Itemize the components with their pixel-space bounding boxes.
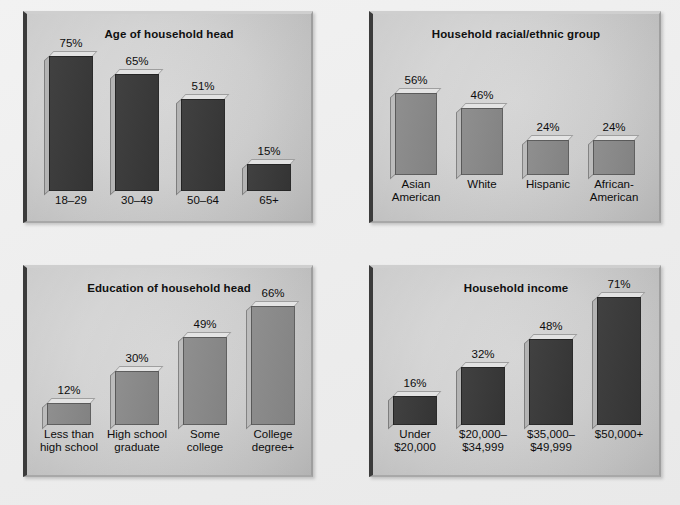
chart-title: Household racial/ethnic group (373, 28, 659, 40)
bar-category-label-line: African- (590, 178, 639, 191)
bar (47, 403, 91, 425)
bar-category-label-line: 30–49 (121, 194, 153, 207)
bar-category-label-line: $34,999 (459, 441, 507, 454)
bar-category-label: Somecollege (187, 428, 223, 454)
bar (461, 367, 505, 425)
bar-value-label: 56% (404, 74, 427, 86)
bar-category-label-line: White (467, 178, 496, 191)
bar-category-label: 30–49 (121, 194, 153, 207)
chart-panel-household-racial-ethnic-group: Household racial/ethnic group 56%AsianAm… (369, 11, 661, 223)
bar-group: 30%High schoolgraduate (115, 371, 159, 425)
chart-title: Education of household head (27, 282, 311, 294)
bar (597, 297, 641, 425)
bar-category-label-line: $20,000– (459, 428, 507, 441)
bar-group: 24%African-American (593, 140, 635, 175)
bar-category-label-line: Hispanic (526, 178, 570, 191)
bar-category-label-line: 18–29 (55, 194, 87, 207)
bar-value-label: 15% (257, 145, 280, 157)
bar-value-label: 30% (125, 352, 148, 364)
plot-area: 12%Less thanhigh school30%High schoolgra… (27, 268, 311, 475)
bar-value-label: 24% (602, 121, 625, 133)
bar-category-label: Less thanhigh school (40, 428, 98, 454)
bar-category-label-line: Under (394, 428, 436, 441)
bar-category-label-line: High school (107, 428, 167, 441)
bar-category-label-line: College (252, 428, 295, 441)
bar-value-label: 49% (193, 318, 216, 330)
bar (115, 371, 159, 425)
bar-category-label-line: high school (40, 441, 98, 454)
bar-category-label-line: 65+ (259, 194, 279, 207)
bar-front-face (529, 339, 573, 425)
bar (393, 396, 437, 425)
bar-category-label-line: graduate (107, 441, 167, 454)
bar-group: 75%18–29 (49, 56, 93, 191)
chart-panel-education-of-household-head: Education of household head 12%Less than… (23, 265, 313, 477)
bar-front-face (593, 140, 635, 175)
bar-category-label: 18–29 (55, 194, 87, 207)
bar-value-label: 16% (403, 377, 426, 389)
bar-category-label: Hispanic (526, 178, 570, 191)
bar-front-face (393, 396, 437, 425)
bar-front-face (115, 371, 159, 425)
bar-category-label: White (467, 178, 496, 191)
bar (461, 108, 503, 175)
chart-panel-age-of-household-head: Age of household head 75%18–2965%30–4951… (23, 11, 313, 223)
bar (247, 164, 291, 191)
bar-category-label: AsianAmerican (392, 178, 441, 204)
bar-category-label-line: $20,000 (394, 441, 436, 454)
bar (529, 339, 573, 425)
bar-group: 15%65+ (247, 164, 291, 191)
bar-group: 56%AsianAmerican (395, 93, 437, 175)
bar-category-label-line: degree+ (252, 441, 295, 454)
bar (183, 337, 227, 425)
bar-front-face (461, 367, 505, 425)
bar-group: 24%Hispanic (527, 140, 569, 175)
bar (115, 74, 159, 191)
bar (251, 306, 295, 425)
bar-category-label: 50–64 (187, 194, 219, 207)
bar-category-label: African-American (590, 178, 639, 204)
bar-category-label: High schoolgraduate (107, 428, 167, 454)
bar (181, 99, 225, 191)
bar-front-face (247, 164, 291, 191)
bar-group: 46%White (461, 108, 503, 175)
chart-title: Household income (373, 282, 659, 294)
bar-front-face (597, 297, 641, 425)
charts-figure: Age of household head 75%18–2965%30–4951… (0, 0, 680, 505)
bar-front-face (47, 403, 91, 425)
bar (49, 56, 93, 191)
bar-front-face (251, 306, 295, 425)
bar-category-label-line: Some (187, 428, 223, 441)
bar-front-face (49, 56, 93, 191)
bar-value-label: 12% (57, 384, 80, 396)
bar-group: 51%50–64 (181, 99, 225, 191)
bar-group: 32%$20,000–$34,999 (461, 367, 505, 425)
bar-category-label-line: $49,999 (527, 441, 575, 454)
plot-area: 75%18–2965%30–4951%50–6415%65+ (27, 14, 311, 221)
bar-front-face (527, 140, 569, 175)
bar-group: 12%Less thanhigh school (47, 403, 91, 425)
plot-area: 56%AsianAmerican46%White24%Hispanic24%Af… (373, 14, 659, 221)
bar-front-face (395, 93, 437, 175)
bar-category-label-line: American (590, 191, 639, 204)
bar-category-label: $35,000–$49,999 (527, 428, 575, 454)
bar-category-label-line: Less than (40, 428, 98, 441)
plot-area: 16%Under$20,00032%$20,000–$34,99948%$35,… (373, 268, 659, 475)
bar (527, 140, 569, 175)
bar-group: 48%$35,000–$49,999 (529, 339, 573, 425)
bar-value-label: 65% (125, 55, 148, 67)
chart-title: Age of household head (27, 28, 311, 40)
bar-category-label-line: Asian (392, 178, 441, 191)
bar-category-label: Under$20,000 (394, 428, 436, 454)
bar-front-face (181, 99, 225, 191)
bar-value-label: 48% (539, 320, 562, 332)
bar-group: 49%Somecollege (183, 337, 227, 425)
bar (593, 140, 635, 175)
bar-group: 66%Collegedegree+ (251, 306, 295, 425)
bar-category-label-line: $50,000+ (595, 428, 643, 441)
bar-front-face (461, 108, 503, 175)
bar-category-label: $20,000–$34,999 (459, 428, 507, 454)
bar (395, 93, 437, 175)
bar-value-label: 32% (471, 348, 494, 360)
bar-category-label-line: American (392, 191, 441, 204)
